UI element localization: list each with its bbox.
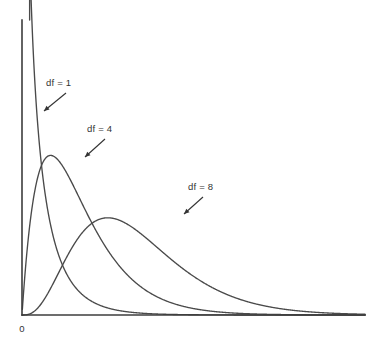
annotation-label: df = 8 [188,181,213,192]
x-axis-origin-tick-label: 0 [19,323,24,334]
chart-background [0,0,380,351]
chi-square-figure: 0 df = 1df = 4df = 8 [0,0,380,351]
chart-canvas: 0 df = 1df = 4df = 8 [0,0,380,351]
annotation-label: df = 1 [46,77,71,88]
annotation-label: df = 4 [87,123,112,134]
